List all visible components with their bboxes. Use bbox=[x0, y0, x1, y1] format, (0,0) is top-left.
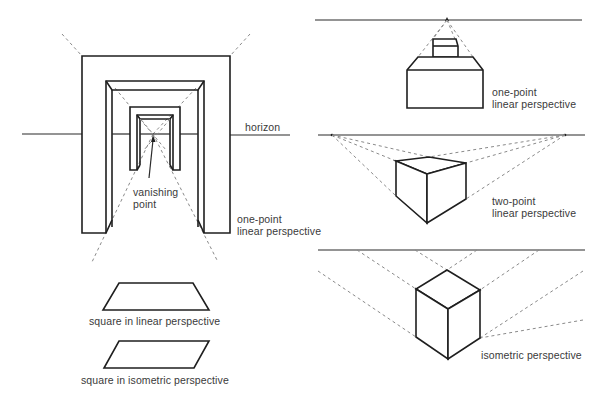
iso-ray-2 bbox=[415, 250, 447, 270]
ray-r3 bbox=[466, 135, 565, 199]
perspective-diagram: horizon vanishing point one-point linear… bbox=[0, 0, 605, 401]
vanishing-point-label-line1: vanishing bbox=[133, 186, 178, 199]
iso-ray-5 bbox=[318, 271, 416, 337]
isometric-box-caption: isometric perspective bbox=[481, 349, 582, 362]
square-isometric-caption: square in isometric perspective bbox=[81, 374, 229, 387]
iso-ray-6 bbox=[480, 271, 583, 338]
iso-ray-7 bbox=[480, 320, 583, 338]
iso-ray-1 bbox=[357, 250, 416, 289]
ray-c bbox=[433, 20, 447, 39]
one-point-box-drawing bbox=[315, 17, 582, 108]
vanishing-point-pointer bbox=[149, 140, 153, 178]
top-block bbox=[433, 39, 458, 57]
ray-d bbox=[447, 20, 455, 39]
two-point-box-caption-line1: two-point bbox=[492, 195, 536, 208]
one-point-box-caption-line1: one-point bbox=[492, 86, 537, 99]
ray-l1 bbox=[332, 135, 429, 157]
two-point-right-face bbox=[427, 163, 466, 223]
iso-ray-3 bbox=[447, 250, 477, 270]
square-linear-caption: square in linear perspective bbox=[89, 315, 220, 328]
outer-arch-foot-right bbox=[198, 220, 204, 233]
ray-l3 bbox=[332, 135, 396, 196]
ray-l2 bbox=[332, 135, 396, 161]
square-linear-perspective bbox=[103, 283, 209, 310]
vanishing-point-label-line2: point bbox=[133, 198, 156, 211]
horizon-label: horizon bbox=[245, 121, 280, 134]
outer-arch-bevel-top bbox=[106, 81, 204, 90]
square-isometric-perspective bbox=[104, 341, 209, 368]
vanishing-ray-top-left bbox=[62, 34, 82, 56]
corridor-caption-line1: one-point bbox=[237, 213, 282, 226]
two-point-box-caption-line2: linear perspective bbox=[492, 207, 576, 220]
isometric-box-drawing bbox=[318, 250, 585, 359]
one-point-box-caption-line2: linear perspective bbox=[492, 98, 576, 111]
vanishing-ray-top-right bbox=[230, 34, 250, 56]
base-block bbox=[407, 57, 483, 108]
iso-ray-4 bbox=[480, 250, 539, 290]
ray-r1 bbox=[429, 135, 565, 157]
outer-arch-foot-left bbox=[106, 220, 112, 233]
corridor-caption-line2: linear perspective bbox=[237, 225, 321, 238]
